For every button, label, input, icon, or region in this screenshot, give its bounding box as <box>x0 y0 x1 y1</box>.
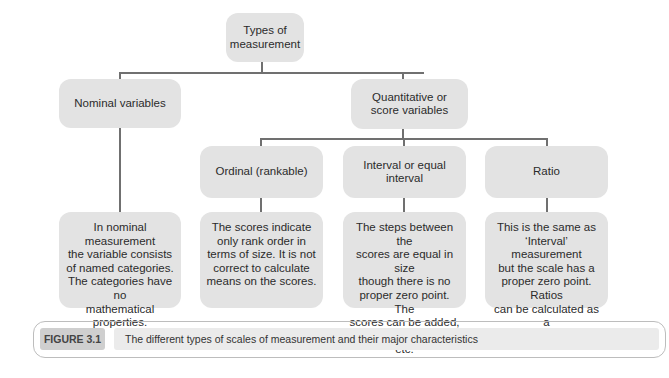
desc-line: The categories have no <box>68 275 172 301</box>
connector-interval-down <box>403 197 405 213</box>
connector-ordinal-down <box>260 197 262 213</box>
node-line: score variables <box>371 104 448 116</box>
connector-ratio-down <box>546 197 548 213</box>
description-nominal: In nominal measurement the variable cons… <box>59 212 181 308</box>
node-types-of-measurement: Types ofmeasurement <box>226 13 304 62</box>
node-line: Quantitative or <box>372 91 447 103</box>
node-line: Interval or equal <box>363 159 445 171</box>
desc-line: proper zero point. The <box>359 289 449 315</box>
desc-line: though there is no <box>358 275 450 287</box>
node-line: measurement <box>230 38 300 50</box>
desc-line: correct to calculate <box>213 262 310 274</box>
desc-line: In nominal measurement <box>85 221 155 247</box>
desc-line: terms of size. It is not <box>207 248 316 260</box>
desc-line: scores are equal in size <box>356 248 453 274</box>
node-interval: Interval or equalinterval <box>343 146 466 198</box>
desc-line: of named categories. <box>66 262 173 274</box>
node-ordinal: Ordinal (rankable) <box>200 146 323 198</box>
node-label: Ordinal (rankable) <box>215 165 307 179</box>
desc-line: This is the same as <box>497 221 596 233</box>
desc-line: The scores indicate <box>212 221 312 233</box>
node-ratio: Ratio <box>485 146 608 198</box>
figure-caption-text: The different types of scales of measure… <box>114 328 659 350</box>
node-nominal-variables: Nominal variables <box>59 79 181 128</box>
desc-line: The steps between the <box>356 221 453 247</box>
connector-level1-bar <box>119 72 424 74</box>
node-label: Nominal variables <box>74 97 165 111</box>
figure-number-label: FIGURE 3.1 <box>40 328 105 350</box>
node-label: Ratio <box>533 165 560 179</box>
desc-line: ‘Interval’ measurement <box>511 235 581 261</box>
description-interval: The steps between the scores are equal i… <box>343 212 466 308</box>
desc-line: but the scale has a <box>498 262 595 274</box>
node-line: Types of <box>243 24 286 36</box>
desc-line: the variable consists <box>68 248 172 260</box>
description-ordinal: The scores indicate only rank order in t… <box>200 212 323 308</box>
desc-line: means on the scores. <box>207 275 317 287</box>
desc-line: proper zero point. Ratios <box>501 275 591 301</box>
desc-line: only rank order in <box>217 235 306 247</box>
description-ratio: This is the same as ‘Interval’ measureme… <box>485 212 608 308</box>
node-quantitative-variables: Quantitative orscore variables <box>351 79 468 129</box>
node-line: interval <box>386 172 423 184</box>
